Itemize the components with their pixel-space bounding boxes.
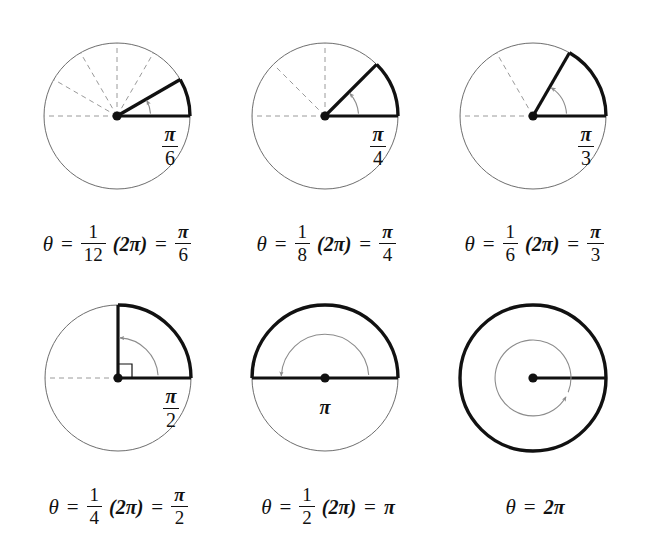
- angle-label-numerator: π: [370, 124, 387, 146]
- theta-symbol: θ: [48, 497, 58, 518]
- angle-label-pi-over-3: π 3: [564, 118, 608, 176]
- angle-measure-arc: [281, 334, 368, 375]
- fraction-numerator: 1: [295, 222, 311, 243]
- angle-label-denominator: 3: [578, 147, 594, 169]
- fraction-numerator: 1: [299, 485, 315, 506]
- result-numerator: π: [171, 485, 187, 506]
- fraction-denominator: 2: [299, 507, 315, 528]
- fraction-denominator: 4: [87, 507, 103, 528]
- angle-label-numerator: π: [578, 124, 595, 146]
- result-denominator: 4: [380, 244, 396, 265]
- result-denominator: 2: [172, 507, 188, 528]
- fraction-numerator: 1: [87, 485, 103, 506]
- angle-label-text: π: [320, 396, 331, 419]
- equals-sign: =: [274, 234, 288, 255]
- theta-symbol: θ: [261, 497, 271, 518]
- angle-measure-arc: [147, 101, 151, 114]
- equals-sign-2: =: [363, 497, 377, 518]
- radian-circles-diagram: [0, 0, 649, 555]
- dashed-division-ray: [81, 53, 118, 116]
- angle-measure-arc: [551, 88, 566, 114]
- equals-sign: =: [482, 234, 496, 255]
- two-pi-term: (2π): [317, 234, 351, 254]
- caption-pi-over-4: θ = 1 8 (2π) = π 4: [222, 222, 430, 266]
- angle-label-pi: π: [304, 393, 346, 421]
- highlighted-arc: [252, 305, 398, 378]
- fraction-denominator: 6: [503, 244, 519, 265]
- highlighted-arc: [570, 53, 607, 116]
- equals-sign: =: [60, 234, 74, 255]
- equals-sign: =: [66, 497, 80, 518]
- fraction-numerator: 1: [86, 222, 102, 243]
- terminal-side-radius: [117, 80, 180, 117]
- angle-label-pi-over-6: π 6: [148, 118, 192, 176]
- angle-label-denominator: 6: [162, 147, 178, 169]
- angle-measure-arc: [350, 94, 359, 114]
- center-dot: [528, 111, 537, 120]
- terminal-side-radius: [325, 64, 377, 116]
- two-pi-term: (2π): [109, 497, 143, 517]
- theta-symbol: θ: [505, 497, 515, 518]
- result-numerator: π: [175, 222, 191, 243]
- equals-sign-2: =: [358, 234, 372, 255]
- theta-symbol: θ: [256, 234, 266, 255]
- bottom-cropped-text: [0, 548, 649, 555]
- center-dot: [320, 111, 329, 120]
- circle-panel-5: [460, 305, 606, 451]
- caption-two-pi: θ = 2π: [440, 485, 630, 529]
- result-numerator: π: [587, 222, 603, 243]
- dashed-division-ray: [273, 64, 325, 116]
- result-denominator: 6: [175, 244, 191, 265]
- dashed-division-ray: [54, 80, 117, 117]
- angle-label-numerator: π: [163, 386, 180, 408]
- angle-label-denominator: 4: [370, 147, 386, 169]
- highlighted-arc: [377, 64, 398, 116]
- two-pi-term: (2π): [322, 497, 356, 517]
- center-dot: [320, 373, 329, 382]
- center-dot: [113, 373, 122, 382]
- angle-label-pi-over-2: π 2: [149, 380, 193, 438]
- caption-pi-over-6: θ = 1 12 (2π) = π 6: [10, 222, 224, 266]
- fraction-denominator: 8: [295, 244, 311, 265]
- equals-sign-2: =: [150, 497, 164, 518]
- angle-measure-arc: [120, 338, 158, 375]
- center-dot: [528, 373, 537, 382]
- highlighted-arc: [118, 305, 191, 378]
- result-numerator: π: [379, 222, 395, 243]
- result-denominator: 3: [588, 244, 604, 265]
- caption-pi-over-3: θ = 1 6 (2π) = π 3: [430, 222, 638, 266]
- highlighted-arc: [180, 80, 190, 117]
- theta-symbol: θ: [464, 234, 474, 255]
- angle-label-numerator: π: [162, 124, 179, 146]
- caption-pi-over-2: θ = 1 4 (2π) = π 2: [14, 485, 222, 529]
- caption-pi: θ = 1 2 (2π) = π: [230, 485, 426, 529]
- two-pi-term: (2π): [525, 234, 559, 254]
- equals-sign-2: =: [154, 234, 168, 255]
- equals-sign: =: [278, 497, 292, 518]
- theta-symbol: θ: [43, 234, 53, 255]
- result-text: 2π: [544, 497, 565, 517]
- equals-sign-2: =: [566, 234, 580, 255]
- circle-panel-4: [252, 305, 398, 451]
- two-pi-term: (2π): [113, 234, 147, 254]
- equals-sign: =: [523, 497, 537, 518]
- figure-root: π 6 π 4 π 3 π 2 π θ = 1: [0, 0, 649, 555]
- angle-label-pi-over-4: π 4: [356, 118, 400, 176]
- terminal-side-radius: [533, 53, 570, 116]
- fraction-numerator: 1: [503, 222, 519, 243]
- angle-label-denominator: 2: [163, 409, 179, 431]
- result-text: π: [384, 497, 395, 517]
- dashed-division-ray: [497, 53, 534, 116]
- fraction-denominator: 12: [81, 244, 106, 265]
- center-dot: [112, 111, 121, 120]
